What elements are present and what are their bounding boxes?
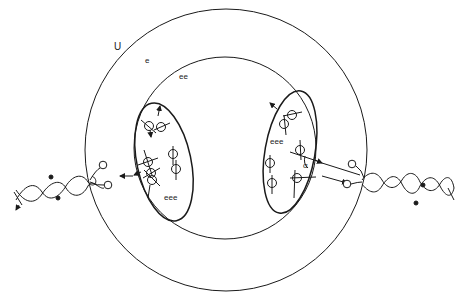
outer-region-label: U — [114, 42, 121, 52]
angle-label: α — [303, 162, 308, 170]
left-dna-helix — [14, 161, 112, 210]
right-ellipse-cluster — [255, 87, 360, 218]
right-cluster-label: eee — [270, 138, 283, 146]
outer-ring-label: e — [145, 57, 149, 65]
left-cluster-label: eee — [164, 194, 177, 202]
left-ellipse-cluster — [120, 98, 203, 227]
inner-region-label: ee — [179, 73, 188, 81]
outer-circle — [85, 9, 367, 291]
right-dna-helix — [343, 160, 454, 205]
inner-circle — [134, 57, 316, 239]
diagram-canvas: U e ee eee eee α — [0, 0, 464, 300]
